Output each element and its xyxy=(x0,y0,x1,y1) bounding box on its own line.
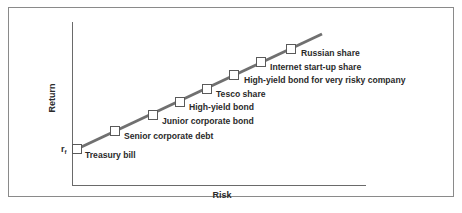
square-marker-icon xyxy=(287,45,296,54)
svg-text:High-yield bond for very risky: High-yield bond for very risky company xyxy=(244,75,406,85)
svg-text:Junior corporate bond: Junior corporate bond xyxy=(162,116,254,126)
point-internet-start-up-share: Internet start-up share xyxy=(257,58,362,73)
point-junior-corporate-bond: Junior corporate bond xyxy=(149,111,254,127)
point-treasury-bill: Treasury bill xyxy=(73,145,136,161)
square-marker-icon xyxy=(176,98,185,107)
x-axis-label: Risk xyxy=(212,190,232,200)
svg-text:Tesco share: Tesco share xyxy=(216,89,266,99)
svg-text:Senior corporate debt: Senior corporate debt xyxy=(124,131,213,141)
square-marker-icon xyxy=(149,111,158,120)
svg-text:Internet start-up share: Internet start-up share xyxy=(270,62,361,72)
square-marker-icon xyxy=(230,71,239,80)
svg-text:Treasury bill: Treasury bill xyxy=(85,150,136,160)
svg-text:High-yield bond: High-yield bond xyxy=(189,102,254,112)
square-marker-icon xyxy=(203,85,212,94)
square-marker-icon xyxy=(73,145,82,154)
point-high-yield-bond-risky-company: High-yield bond for very risky company xyxy=(230,71,406,86)
svg-text:Russian share: Russian share xyxy=(301,48,360,58)
square-marker-icon xyxy=(257,58,266,67)
point-senior-corporate-debt: Senior corporate debt xyxy=(111,127,214,142)
risk-return-diagram: Risk Return rf Treasury bill Senior corp… xyxy=(0,0,462,213)
square-marker-icon xyxy=(111,127,120,136)
risk-free-rate-label: rf xyxy=(61,144,68,155)
point-high-yield-bond: High-yield bond xyxy=(176,98,254,113)
y-axis-label: Return xyxy=(47,84,57,113)
point-tesco-share: Tesco share xyxy=(203,85,266,100)
